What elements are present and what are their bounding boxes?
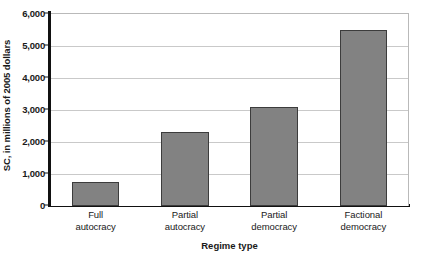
- bar: [340, 30, 387, 206]
- y-axis-tick-label: 5,000: [22, 40, 45, 51]
- y-axis-tick-label: 3,000: [22, 104, 45, 115]
- plot-area: [51, 13, 409, 206]
- x-axis-title: Regime type: [51, 240, 408, 251]
- x-axis-tick-label-line1: Partial: [140, 209, 229, 221]
- y-axis-tick-label: 6,000: [22, 8, 45, 19]
- y-axis-tick-label: 4,000: [22, 72, 45, 83]
- bar: [161, 132, 208, 206]
- y-axis-tick-labels: 01,0002,0003,0004,0005,0006,000: [12, 0, 48, 211]
- x-axis-tick-label: Factionaldemocracy: [319, 209, 408, 232]
- x-axis-tick-label: Partialautocracy: [140, 209, 229, 232]
- x-axis-tick-label-line2: democracy: [319, 221, 408, 233]
- y-axis-title-text: SC, in millions of 2005 dollars: [2, 39, 13, 171]
- bar-series: [51, 14, 408, 206]
- x-axis-tick-labels: FullautocracyPartialautocracyPartialdemo…: [51, 209, 408, 243]
- y-axis-tick-label: 2,000: [22, 136, 45, 147]
- x-axis-tick-label-line1: Factional: [319, 209, 408, 221]
- x-axis-tick-label: Partialdemocracy: [230, 209, 319, 232]
- bar-chart-figure: SC, in millions of 2005 dollars 01,0002,…: [0, 0, 422, 259]
- bar: [250, 107, 297, 206]
- x-axis-tick-label-line2: democracy: [230, 221, 319, 233]
- x-axis-tick-label-line2: autocracy: [140, 221, 229, 233]
- x-axis-tick-label: Fullautocracy: [51, 209, 140, 232]
- y-axis-tick-label: 1,000: [22, 168, 45, 179]
- x-axis-tick-label-line2: autocracy: [51, 221, 140, 233]
- bar: [72, 182, 119, 206]
- x-axis-tick-label-line1: Full: [51, 209, 140, 221]
- x-axis-tick-label-line1: Partial: [230, 209, 319, 221]
